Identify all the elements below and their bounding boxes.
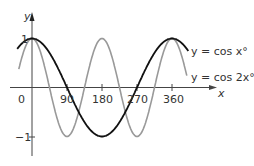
x-axis-label: x xyxy=(217,87,225,100)
y-axis-label: y xyxy=(23,10,31,23)
chart-canvas: 0 90 180 270 360 1 −1 x y y = cos x° y =… xyxy=(0,0,254,166)
legend-cos-x: y = cos x° xyxy=(191,45,248,58)
x-tick-label-360: 360 xyxy=(163,93,184,106)
x-tick-label-90: 90 xyxy=(60,93,74,106)
origin-label: 0 xyxy=(18,93,25,106)
y-tick-label-neg1: −1 xyxy=(15,131,31,144)
x-axis-arrow-icon xyxy=(209,85,217,90)
x-tick-label-270: 270 xyxy=(127,93,148,106)
y-tick-label-1: 1 xyxy=(21,33,28,46)
legend-cos-2x: y = cos 2x° xyxy=(191,71,254,84)
x-tick-label-180: 180 xyxy=(92,93,113,106)
